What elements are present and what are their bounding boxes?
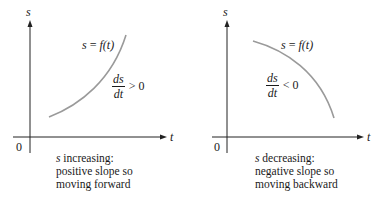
right-curve-label: s = f(t) [281, 39, 313, 51]
derivative-value: 0 [292, 78, 298, 93]
left-s-axis-label: s [26, 6, 31, 18]
left-derivative-fraction: ds dt [112, 73, 125, 100]
left-curve-label: s = f(t) [82, 39, 114, 51]
right-derivative-fraction: ds dt [266, 72, 279, 99]
curve-label-arg: (t) [103, 38, 114, 52]
right-s-axis-label: s [223, 6, 228, 18]
derivative-denominator: dt [114, 87, 123, 100]
right-s-axis-arrow-icon [225, 20, 230, 27]
caption-line1-rest: increasing: [60, 152, 113, 164]
left-origin-label: 0 [16, 141, 22, 153]
left-caption-line1: s increasing: [56, 152, 133, 165]
right-caption-line1: s decreasing: [255, 152, 338, 165]
curve-label-eq: = [286, 38, 299, 52]
derivative-numerator: ds [266, 72, 279, 86]
derivative-relation: > [129, 79, 136, 94]
curve-label-arg: (t) [302, 38, 313, 52]
left-caption-line3: moving forward [56, 178, 133, 191]
right-caption-line2: negative slope so [255, 165, 338, 178]
derivative-denominator: dt [268, 86, 277, 99]
derivative-value: 0 [138, 79, 144, 94]
left-t-axis-arrow-icon [160, 135, 167, 140]
right-caption-line3: moving backward [255, 178, 338, 191]
left-caption-line2: positive slope so [56, 165, 133, 178]
left-s-axis-arrow-icon [28, 20, 33, 27]
curve-label-eq: = [87, 38, 100, 52]
right-caption: s decreasing: negative slope so moving b… [255, 152, 338, 191]
derivative-numerator: ds [112, 73, 125, 87]
left-t-axis-label: t [170, 131, 173, 143]
left-derivative-expression: ds dt > 0 [112, 73, 144, 100]
left-caption: s increasing: positive slope so moving f… [56, 152, 133, 191]
derivative-relation: < [283, 78, 290, 93]
caption-line1-rest: decreasing: [259, 152, 314, 164]
right-t-axis-label: t [367, 131, 370, 143]
right-origin-label: 0 [214, 141, 220, 153]
right-derivative-expression: ds dt < 0 [266, 72, 298, 99]
right-t-axis-arrow-icon [357, 135, 364, 140]
